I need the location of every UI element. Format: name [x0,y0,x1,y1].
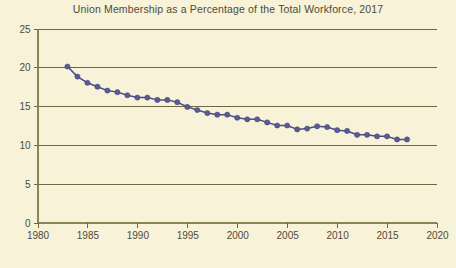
data-point [105,88,110,93]
data-point [125,93,130,98]
data-point [225,112,230,117]
data-point [404,137,409,142]
data-point [364,132,369,137]
data-point [135,95,140,100]
tickmarks-group [34,29,438,228]
x-tick-label-2000: 2000 [227,230,250,241]
y-axis-tick-labels: 0510152025 [19,24,31,229]
y-tick-label-15: 15 [19,101,31,112]
data-point [275,123,280,128]
data-point [65,64,70,69]
data-point [235,115,240,120]
data-point [245,117,250,122]
data-point [315,124,320,129]
data-point [205,110,210,115]
x-tick-label-2020: 2020 [426,230,449,241]
x-tick-label-2015: 2015 [376,230,399,241]
data-point [335,128,340,133]
data-point [394,137,399,142]
line-chart-plot: 0510152025 19801985199019952000200520102… [0,0,456,268]
x-tick-label-2010: 2010 [327,230,350,241]
data-point [75,74,80,79]
x-tick-label-1995: 1995 [177,230,200,241]
data-point [185,104,190,109]
axes-group [38,29,438,224]
data-point [384,134,389,139]
data-point [175,100,180,105]
data-point [345,128,350,133]
data-point [145,95,150,100]
data-point [95,84,100,89]
y-tick-label-20: 20 [19,62,31,73]
data-point [115,90,120,95]
series-line-0 [67,67,407,140]
y-tick-label-5: 5 [25,179,31,190]
data-point [155,97,160,102]
y-tick-label-25: 25 [19,24,31,35]
x-tick-label-1985: 1985 [77,230,100,241]
x-tick-label-1990: 1990 [127,230,150,241]
data-point [295,127,300,132]
data-point [355,132,360,137]
data-point [85,80,90,85]
x-tick-label-2005: 2005 [277,230,300,241]
x-axis-tick-labels: 198019851990199520002005201020152020 [27,230,449,241]
data-series-union-membership [65,64,410,142]
data-point [265,120,270,125]
gridlines-group [38,29,438,184]
data-point [255,117,260,122]
y-tick-label-10: 10 [19,140,31,151]
data-point [195,107,200,112]
chart-container: Union Membership as a Percentage of the … [0,0,456,268]
y-tick-label-0: 0 [25,218,31,229]
data-point [374,134,379,139]
data-point [305,126,310,131]
data-point [165,97,170,102]
x-tick-label-1980: 1980 [27,230,50,241]
data-point [285,123,290,128]
data-point [215,112,220,117]
data-point [325,124,330,129]
